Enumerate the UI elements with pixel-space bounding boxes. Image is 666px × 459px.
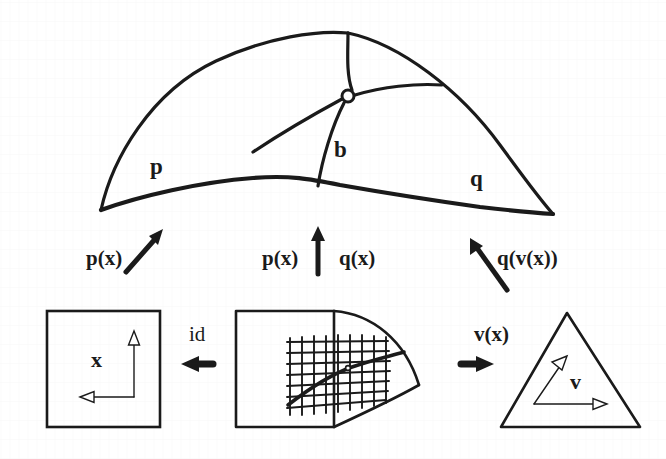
axis-arrow-right-head <box>593 399 607 410</box>
surface-bottom-edge <box>101 177 553 214</box>
triangle-domain-label-v: v <box>570 371 581 393</box>
overlap-square-outline <box>236 311 334 427</box>
surface-upper-left-edge <box>101 32 348 210</box>
surface-label-p: p <box>150 155 163 178</box>
overlap-fan-top-curve <box>334 311 419 385</box>
surface-curve-right-branch <box>355 84 442 95</box>
coordinate-grid-mesh <box>287 335 390 415</box>
arrow-up-right <box>126 229 163 272</box>
transition-label-v-of-x: v(x) <box>474 324 509 345</box>
surface-upper-right-edge <box>348 33 553 214</box>
axis-arrow-left-head <box>80 392 94 403</box>
square-domain-group <box>47 311 160 427</box>
map-label-p-of-x-left: p(x) <box>86 248 122 269</box>
diagram-svg: .ink { fill:none; stroke:#1a1a1a; stroke… <box>0 0 666 459</box>
arrow-up-vertical <box>311 226 325 274</box>
map-label-p-of-x-mid: p(x) <box>262 248 298 269</box>
map-label-q-of-v-of-x: q(v(x)) <box>497 248 558 269</box>
arrow-left-thick <box>181 356 213 372</box>
map-label-q-of-x-mid: q(x) <box>339 248 375 269</box>
overlap-domain-group <box>236 311 419 427</box>
axis-arrow-diagonal-shaft <box>534 366 560 404</box>
curve-marker-dot <box>346 366 351 371</box>
surface-label-b: b <box>334 138 347 161</box>
curved-surface-group <box>101 32 553 214</box>
surface-seam-upper <box>348 33 352 90</box>
surface-label-q: q <box>470 167 483 190</box>
transition-label-id: id <box>189 324 205 345</box>
square-domain-outline <box>47 311 160 427</box>
square-domain-label-x: x <box>91 349 102 371</box>
arrow-right-thick <box>461 356 494 372</box>
axis-arrow-diagonal-head <box>552 356 567 370</box>
overlap-point-circle <box>342 90 354 102</box>
axis-arrow-up-head <box>129 331 140 345</box>
figure-canvas: .ink { fill:none; stroke:#1a1a1a; stroke… <box>0 0 666 459</box>
